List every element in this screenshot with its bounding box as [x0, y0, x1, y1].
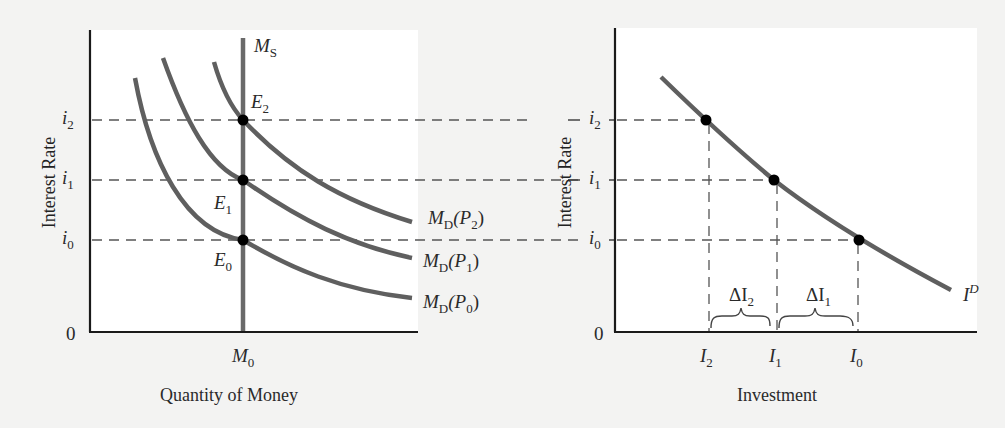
right-tick-i0: i0	[589, 228, 601, 251]
md-c: )	[473, 250, 479, 271]
delta-main: ΔI	[806, 284, 825, 305]
eq-main: E	[251, 91, 263, 112]
md-p: (P	[448, 291, 466, 312]
md-d: D	[439, 260, 448, 275]
md-p0-label: MD(P0)	[423, 292, 479, 315]
money-demand-curves	[135, 58, 412, 298]
delta-i2-label: ΔI2	[729, 285, 754, 308]
md-m: M	[423, 250, 439, 271]
tick-sub: 0	[67, 237, 74, 252]
eq-label-e1: E1	[214, 193, 232, 216]
md-d: D	[444, 217, 453, 232]
delta-i1-label: ΔI1	[806, 285, 831, 308]
md-p: (P	[448, 250, 466, 271]
left-tick-i1: i1	[62, 168, 74, 191]
right-x-axis-title: Investment	[737, 386, 817, 404]
right-tick-I0: I0	[850, 346, 863, 369]
right-tick-i1: i1	[589, 168, 601, 191]
eq-sub: 1	[226, 202, 233, 217]
delta-sub: 1	[825, 294, 832, 309]
ms-main: M	[254, 35, 270, 56]
right-tick-i2: i2	[589, 108, 601, 131]
md-m: M	[428, 207, 444, 228]
eq-sub: 0	[226, 259, 233, 274]
right-origin-label: 0	[594, 324, 604, 343]
right-y-axis-title: Interest Rate	[555, 128, 576, 238]
eq-main: E	[214, 192, 226, 213]
left-tick-i0: i0	[62, 228, 74, 251]
brace-delta-i1	[779, 308, 853, 328]
md-m: M	[423, 291, 439, 312]
tick-sub: 1	[775, 355, 782, 370]
eq-main: E	[214, 249, 226, 270]
ms-sub: S	[270, 45, 277, 60]
delta-main: ΔI	[729, 284, 748, 305]
md-c: )	[478, 207, 484, 228]
tick-sub: 2	[706, 355, 713, 370]
id-sup: D	[969, 281, 978, 296]
brace-delta-i2	[711, 308, 770, 328]
investment-demand-label: ID	[963, 282, 979, 304]
left-dashed-guides	[92, 120, 585, 240]
right-tick-I2: I2	[700, 346, 713, 369]
right-tick-I1: I1	[769, 346, 782, 369]
tick-sub: 0	[594, 237, 601, 252]
left-tick-m0: M0	[232, 346, 254, 369]
m0-sub: 0	[248, 355, 255, 370]
tick-sub: 1	[67, 177, 74, 192]
left-axes	[89, 30, 418, 332]
eq-label-e2: E2	[251, 92, 269, 115]
left-x-axis-title: Quantity of Money	[160, 386, 298, 404]
md-d: D	[439, 301, 448, 316]
money-supply-label: MS	[254, 36, 277, 59]
delta-braces	[711, 308, 853, 328]
left-y-axis-title: Interest Rate	[39, 128, 60, 238]
tick-sub: 2	[67, 117, 74, 132]
left-origin-label: 0	[66, 324, 76, 343]
tick-sub: 2	[594, 117, 601, 132]
investment-demand-curve	[661, 77, 951, 290]
left-tick-i2: i2	[62, 108, 74, 131]
eq-label-e0: E0	[214, 250, 232, 273]
tick-sub: 1	[594, 177, 601, 192]
m0-main: M	[232, 345, 248, 366]
md-p: (P	[453, 207, 471, 228]
delta-sub: 2	[748, 294, 755, 309]
md-p2-label: MD(P2)	[428, 208, 484, 231]
md-p0-curve	[135, 78, 412, 298]
eq-sub: 2	[263, 101, 270, 116]
tick-sub: 0	[856, 355, 863, 370]
md-p1-label: MD(P1)	[423, 251, 479, 274]
md-c: )	[473, 291, 479, 312]
